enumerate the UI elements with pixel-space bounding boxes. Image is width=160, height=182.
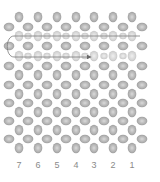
bead: [109, 107, 118, 117]
bead: [90, 70, 99, 80]
bead: [80, 81, 91, 89]
bead: [137, 99, 148, 107]
bead: [118, 81, 129, 89]
bead: [53, 70, 62, 80]
bead: [4, 117, 15, 125]
bead: [128, 107, 137, 117]
bead: [137, 23, 148, 31]
bead: [53, 51, 62, 61]
bead: [34, 70, 43, 80]
bead: [109, 12, 118, 22]
bead: [4, 62, 15, 70]
bead: [34, 125, 43, 135]
bead: [15, 51, 24, 61]
bead: [72, 51, 81, 61]
bead: [137, 42, 148, 50]
bead: [23, 42, 34, 50]
bead: [90, 107, 99, 117]
bead: [34, 89, 43, 99]
bead: [23, 99, 34, 107]
bead: [61, 62, 72, 70]
bead: [23, 135, 34, 143]
column-label: 7: [12, 158, 26, 172]
bead: [61, 23, 72, 31]
bead: [34, 143, 43, 153]
bead: [43, 53, 50, 59]
bead: [118, 23, 129, 31]
bead: [99, 42, 110, 50]
bead-grid: [4, 12, 148, 153]
bead: [99, 62, 110, 70]
bead: [128, 89, 137, 99]
bead: [80, 117, 91, 125]
bead: [100, 53, 107, 59]
bead: [23, 117, 34, 125]
bead: [80, 99, 91, 107]
column-label: 3: [87, 158, 101, 172]
bead: [90, 125, 99, 135]
bead: [4, 42, 15, 50]
column-label: 4: [69, 158, 83, 172]
bead: [137, 81, 148, 89]
bead: [90, 89, 99, 99]
bead: [4, 99, 15, 107]
bead: [137, 117, 148, 125]
bead: [61, 81, 72, 89]
bead: [61, 42, 72, 50]
bead: [128, 125, 137, 135]
bead: [42, 81, 53, 89]
bead: [118, 117, 129, 125]
bead: [90, 12, 99, 22]
bead: [53, 107, 62, 117]
bead: [80, 135, 91, 143]
bead: [119, 53, 126, 59]
bead: [128, 12, 137, 22]
bead: [99, 117, 110, 125]
bead: [23, 23, 34, 31]
column-labels: 7654321: [0, 158, 160, 172]
bead: [137, 135, 148, 143]
bead: [42, 117, 53, 125]
bead: [4, 81, 15, 89]
bead: [34, 51, 43, 61]
bead: [15, 12, 24, 22]
bead: [23, 62, 34, 70]
bead: [53, 125, 62, 135]
bead-pattern-diagram: [0, 0, 160, 182]
bead: [34, 107, 43, 117]
column-label: 1: [125, 158, 139, 172]
bead: [15, 143, 24, 153]
bead: [128, 70, 137, 80]
bead: [80, 62, 91, 70]
bead: [23, 81, 34, 89]
bead: [72, 89, 81, 99]
bead: [15, 107, 24, 117]
bead: [62, 53, 69, 59]
bead: [80, 23, 91, 31]
bead: [118, 62, 129, 70]
bead: [109, 89, 118, 99]
bead: [4, 135, 15, 143]
bead: [72, 107, 81, 117]
bead: [15, 70, 24, 80]
bead: [15, 89, 24, 99]
bead: [72, 70, 81, 80]
bead: [80, 42, 91, 50]
bead: [109, 70, 118, 80]
bead: [118, 99, 129, 107]
bead: [81, 53, 88, 59]
bead: [61, 99, 72, 107]
bead: [61, 135, 72, 143]
bead: [53, 89, 62, 99]
column-label: 6: [31, 158, 45, 172]
bead: [42, 99, 53, 107]
column-label: 2: [106, 158, 120, 172]
bead: [42, 135, 53, 143]
bead: [15, 125, 24, 135]
bead: [4, 23, 15, 31]
bead: [53, 143, 62, 153]
bead: [99, 135, 110, 143]
bead: [34, 12, 43, 22]
bead: [24, 53, 31, 59]
bead: [128, 51, 137, 61]
